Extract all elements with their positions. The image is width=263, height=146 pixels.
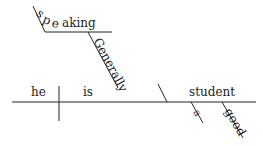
word-subject: he	[31, 86, 46, 98]
diagram-lines	[0, 0, 263, 146]
participle-letters-aking: aking	[62, 17, 96, 29]
word-complement: student	[189, 86, 235, 98]
word-verb: is	[83, 86, 93, 98]
complement-divider	[158, 84, 167, 102]
